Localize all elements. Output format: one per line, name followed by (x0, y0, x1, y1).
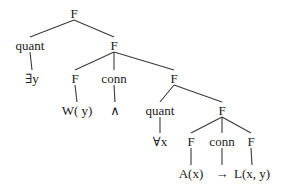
node-f-level1: F (110, 39, 117, 52)
node-conn-1: conn (101, 72, 126, 85)
tree-edge (30, 20, 74, 37)
node-and-symbol: ∧ (110, 104, 120, 117)
node-l-x-y: L(x, y) (234, 167, 270, 180)
syntax-tree-diagram: F quant F ∃y F conn F W( y) ∧ quant F ∀x… (0, 0, 284, 190)
tree-edge (75, 52, 114, 70)
tree-edges (0, 0, 284, 190)
tree-edge (114, 52, 174, 70)
tree-edge (174, 85, 222, 102)
tree-edge (251, 148, 252, 165)
tree-edge (222, 117, 251, 133)
node-exists-y: ∃y (25, 72, 39, 85)
tree-edge (114, 85, 115, 102)
tree-edge (30, 52, 32, 70)
node-forall-x: ∀x (153, 135, 167, 148)
node-f-right: F (170, 72, 177, 85)
tree-edge (75, 85, 77, 102)
tree-edge (160, 85, 174, 102)
tree-edge (74, 20, 114, 37)
node-quant-1: quant (16, 39, 45, 52)
node-f-left: F (71, 72, 78, 85)
node-f-consequent: F (247, 135, 254, 148)
node-f-antecedent: F (187, 135, 194, 148)
node-root-f: F (70, 7, 77, 20)
node-conn-2: conn (209, 135, 234, 148)
node-w-y: W( y) (62, 104, 93, 117)
node-quant-2: quant (146, 104, 175, 117)
node-implies-symbol: → (216, 167, 229, 180)
tree-edge (191, 117, 222, 133)
node-a-x: A(x) (179, 167, 204, 180)
node-f-inner: F (218, 104, 225, 117)
